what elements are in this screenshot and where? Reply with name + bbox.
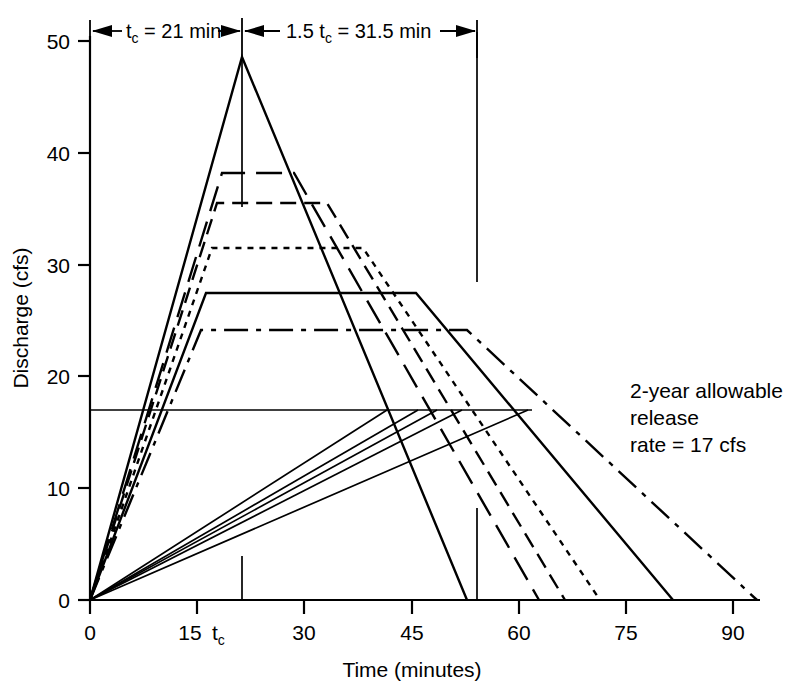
x-tick-label-0: 0 (84, 621, 96, 644)
outflow-fan-group (90, 410, 528, 600)
chart-canvas: 0 10 20 30 40 50 0 15 30 45 60 75 90 tc (0, 0, 803, 686)
detention-hydrograph-5 (90, 330, 757, 600)
y-tick-label-20: 20 (47, 365, 70, 388)
callout-line-1: 2-year allowable (630, 379, 783, 402)
axes-group (90, 36, 760, 600)
hydrograph-curves-group (90, 57, 757, 600)
y-tick-label-40: 40 (47, 142, 70, 165)
x-tick-label-75: 75 (614, 621, 637, 644)
dim-label-tc-sub: c (132, 30, 139, 46)
x-ticks-group: 0 15 30 45 60 75 90 tc (84, 600, 745, 648)
x-tick-label-15: 15 (178, 621, 201, 644)
dim-label-base-main: 1.5 t (286, 20, 325, 42)
callout-line-3: rate = 17 cfs (630, 433, 746, 456)
dim-label-base-sub: c (325, 30, 332, 46)
tc-axis-marker-sub: c (218, 632, 225, 648)
dim-arrowhead-right-2 (456, 25, 476, 37)
hydrograph-figure: 0 10 20 30 40 50 0 15 30 45 60 75 90 tc (0, 0, 803, 686)
y-tick-label-30: 30 (47, 254, 70, 277)
dim-arrowhead-left-1 (92, 25, 112, 37)
y-tick-label-0: 0 (58, 589, 70, 612)
tc-axis-marker: tc (212, 621, 225, 648)
detention-hydrograph-4 (90, 293, 673, 600)
y-tick-label-10: 10 (47, 477, 70, 500)
release-rate-callout: 2-year allowable release rate = 17 cfs (630, 379, 783, 456)
dimension-lines-group: tc = 21 min 1.5 tc = 31.5 min (90, 18, 477, 58)
x-tick-label-60: 60 (507, 621, 530, 644)
x-tick-label-30: 30 (292, 621, 315, 644)
dim-label-base-rest: = 31.5 min (332, 20, 432, 42)
x-tick-label-45: 45 (400, 621, 423, 644)
detention-hydrograph-3 (90, 248, 600, 600)
outflow-release-fan-5 (90, 410, 528, 600)
dim-label-base: 1.5 tc = 31.5 min (286, 20, 431, 46)
x-tick-label-90: 90 (721, 621, 744, 644)
y-ticks-group: 0 10 20 30 40 50 (47, 30, 90, 612)
dim-arrowhead-right-1 (221, 25, 241, 37)
x-axis-title: Time (minutes) (342, 658, 481, 681)
vertical-markers-group (242, 32, 477, 600)
callout-line-2: release (630, 406, 699, 429)
dim-label-tc: tc = 21 min (126, 20, 221, 46)
dim-arrowhead-left-2 (244, 25, 264, 37)
y-tick-label-50: 50 (47, 30, 70, 53)
dim-label-tc-rest: = 21 min (139, 20, 222, 42)
y-axis-title: Discharge (cfs) (9, 247, 32, 388)
